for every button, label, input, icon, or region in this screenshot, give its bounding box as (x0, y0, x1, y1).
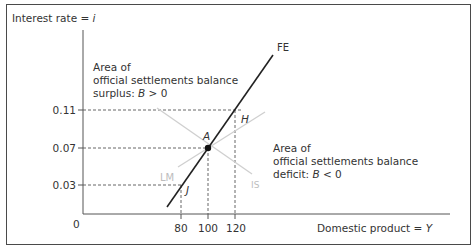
deficit-area-annotation: Area of official settlements balance def… (273, 142, 418, 180)
origin-label: 0 (73, 218, 80, 230)
lm-curve-label: LM (160, 172, 174, 183)
equilibrium-point-a (205, 145, 211, 151)
y-axis-label: Interest rate = i (12, 12, 96, 24)
svg-text:surplus: B > 0: surplus: B > 0 (93, 87, 167, 99)
point-h-label: H (241, 113, 249, 125)
x-tick-label: 120 (226, 222, 246, 234)
svg-text:official settlements balance: official settlements balance (93, 74, 238, 86)
is-lm-fe-diagram: Interest rate = i Domestic product = Y 0… (0, 0, 476, 251)
y-tick-label: 0.03 (53, 179, 76, 191)
lm-curve (178, 112, 265, 167)
svg-text:Area of: Area of (93, 61, 131, 73)
dashed-guides (83, 110, 242, 214)
y-tick-label: 0.11 (53, 104, 76, 116)
svg-text:deficit: B < 0: deficit: B < 0 (273, 168, 342, 180)
x-tick-label: 100 (198, 222, 218, 234)
surplus-area-annotation: Area of official settlements balance sur… (93, 61, 238, 99)
point-a-label: A (202, 130, 210, 142)
x-tick-label: 80 (174, 222, 187, 234)
x-axis-label: Domestic product = Y (317, 222, 434, 234)
y-tick-label: 0.07 (53, 142, 76, 154)
fe-curve-label: FE (277, 42, 289, 53)
svg-text:Area of: Area of (273, 142, 311, 154)
is-curve-label: IS (251, 180, 260, 190)
point-j-label: J (184, 184, 189, 196)
svg-text:official settlements balance: official settlements balance (273, 155, 418, 167)
